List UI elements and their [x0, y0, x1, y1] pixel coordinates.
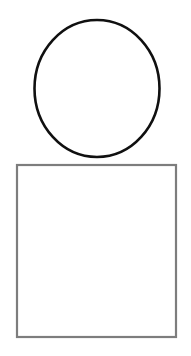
drawing-canvas [0, 0, 191, 356]
canvas-background [0, 0, 191, 356]
shapes-figure [0, 0, 191, 356]
